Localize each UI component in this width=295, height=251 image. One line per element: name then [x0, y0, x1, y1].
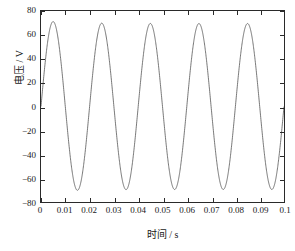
- x-tick-2: [90, 198, 91, 202]
- y-tick-label-5: −20: [22, 125, 36, 136]
- y-tick-3: [41, 83, 45, 84]
- figure-canvas: 806040200−20−40−60−80 00.010.020.030.040…: [0, 0, 295, 251]
- y-tick-6: [41, 156, 45, 157]
- y-tick-right-4: [280, 108, 284, 109]
- x-tick-9: [261, 198, 262, 202]
- y-tick-1: [41, 35, 45, 36]
- waveform-curve: [41, 11, 284, 202]
- x-tick-top-3: [115, 11, 116, 15]
- y-tick-label-0: 80: [27, 5, 36, 16]
- x-tick-top-6: [188, 11, 189, 15]
- y-tick-right-6: [280, 156, 284, 157]
- x-tick-label-5: 0.05: [155, 205, 171, 216]
- x-tick-top-8: [237, 11, 238, 15]
- x-tick-top-9: [261, 11, 262, 15]
- y-tick-right-0: [280, 11, 284, 12]
- x-tick-0: [41, 198, 42, 202]
- y-tick-right-3: [280, 83, 284, 84]
- x-tick-label-8: 0.08: [228, 205, 244, 216]
- x-tick-label-2: 0.02: [81, 205, 97, 216]
- y-tick-label-3: 20: [27, 77, 36, 88]
- x-tick-1: [65, 198, 66, 202]
- y-tick-label-8: −80: [22, 198, 36, 209]
- x-tick-5: [164, 198, 165, 202]
- y-tick-0: [41, 11, 45, 12]
- x-tick-label-0: 0: [38, 205, 43, 216]
- y-tick-4: [41, 108, 45, 109]
- y-tick-label-6: −40: [22, 149, 36, 160]
- y-tick-right-1: [280, 35, 284, 36]
- y-tick-2: [41, 59, 45, 60]
- x-tick-label-7: 0.07: [204, 205, 220, 216]
- x-tick-label-6: 0.06: [179, 205, 195, 216]
- x-tick-6: [188, 198, 189, 202]
- y-tick-7: [41, 180, 45, 181]
- x-tick-7: [213, 198, 214, 202]
- x-tick-4: [139, 198, 140, 202]
- y-tick-label-4: 0: [32, 101, 37, 112]
- x-tick-label-4: 0.04: [130, 205, 146, 216]
- y-tick-label-2: 40: [27, 53, 36, 64]
- x-tick-label-1: 0.01: [57, 205, 73, 216]
- y-tick-right-2: [280, 59, 284, 60]
- y-tick-right-7: [280, 180, 284, 181]
- y-tick-label-1: 60: [27, 29, 36, 40]
- x-tick-top-2: [90, 11, 91, 15]
- y-tick-right-5: [280, 132, 284, 133]
- x-tick-top-7: [213, 11, 214, 15]
- x-axis-title: 时间 / s: [40, 226, 285, 241]
- x-tick-top-5: [164, 11, 165, 15]
- x-tick-top-1: [65, 11, 66, 15]
- x-tick-label-3: 0.03: [106, 205, 122, 216]
- x-tick-3: [115, 198, 116, 202]
- x-tick-label-10: 0.1: [279, 205, 290, 216]
- voltage-series-path: [41, 22, 284, 191]
- x-tick-8: [237, 198, 238, 202]
- x-tick-top-4: [139, 11, 140, 15]
- x-tick-label-9: 0.09: [253, 205, 269, 216]
- y-axis-title: 电压 / V: [11, 18, 26, 118]
- plot-area: [40, 10, 285, 203]
- y-tick-label-7: −60: [22, 173, 36, 184]
- y-tick-5: [41, 132, 45, 133]
